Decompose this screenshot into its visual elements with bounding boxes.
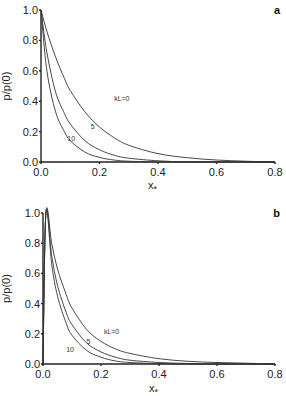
- curve-kl0: [43, 208, 275, 364]
- curve-10: [41, 10, 275, 162]
- y-tick-label: 0.8: [25, 237, 40, 249]
- x-tick-label: 0.2: [92, 166, 107, 178]
- curve-label: kL=0: [114, 95, 129, 102]
- y-tick-label: 0.6: [23, 65, 38, 77]
- x-axis-label: x*: [149, 382, 159, 396]
- figure: 0.00.20.40.60.81.00.00.20.40.60.8kL=0510…: [0, 0, 286, 396]
- x-tick-label: 0.4: [151, 368, 166, 380]
- x-tick-label: 0.2: [93, 368, 108, 380]
- curve-label: 10: [67, 135, 75, 142]
- curve-kl0: [41, 10, 275, 162]
- curve-label: 5: [91, 123, 95, 130]
- y-axis-label: p/p(0): [0, 274, 12, 303]
- curve-5: [41, 10, 275, 162]
- panel-b-chart: 0.00.20.40.60.81.00.00.20.40.60.8kL=0510…: [0, 207, 283, 396]
- x-tick-label: 0.8: [267, 166, 282, 178]
- curve-label: 10: [66, 346, 74, 353]
- x-tick-label: 0.0: [35, 368, 50, 380]
- x-tick-label: 0.6: [209, 166, 224, 178]
- curve-label: 5: [87, 338, 91, 345]
- y-tick-label: 0.2: [25, 328, 40, 340]
- y-tick-label: 0.6: [25, 267, 40, 279]
- x-tick-label: 0.8: [267, 368, 282, 380]
- y-tick-label: 0.4: [23, 95, 38, 107]
- y-tick-label: 0.2: [23, 126, 38, 138]
- x-tick-label: 0.6: [209, 368, 224, 380]
- x-tick-label: 0.4: [150, 166, 165, 178]
- curve-5: [43, 209, 275, 364]
- curve-10: [43, 210, 275, 364]
- panel-label: b: [273, 207, 280, 219]
- y-tick-label: 1.0: [25, 207, 40, 219]
- x-tick-label: 0.0: [33, 166, 48, 178]
- panel-a-chart: 0.00.20.40.60.81.00.00.20.40.60.8kL=0510…: [0, 4, 283, 194]
- y-axis-label: p/p(0): [0, 72, 12, 101]
- panel-label: a: [274, 4, 281, 16]
- y-tick-label: 0.4: [25, 298, 40, 310]
- y-tick-label: 0.8: [23, 34, 38, 46]
- y-tick-label: 1.0: [23, 4, 38, 16]
- x-axis-label: x*: [148, 179, 158, 194]
- curve-label: kL=0: [104, 328, 119, 335]
